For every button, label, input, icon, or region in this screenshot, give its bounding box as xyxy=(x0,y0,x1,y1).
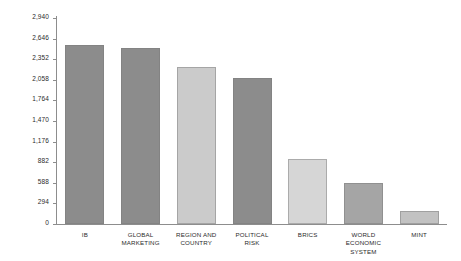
y-axis-tick-mark xyxy=(53,59,57,60)
bar[interactable] xyxy=(344,183,383,224)
y-axis-tick-label: 2,646 xyxy=(32,34,49,41)
bar-slot xyxy=(121,18,160,224)
y-axis-tick-mark xyxy=(53,142,57,143)
x-axis-category-label: WORLD ECONOMIC SYSTEM xyxy=(336,231,392,256)
x-axis-category-label: REGION AND COUNTRY xyxy=(168,231,224,248)
x-axis-category-label: GLOBAL MARKETING xyxy=(113,231,169,248)
bar-slot xyxy=(288,18,327,224)
y-axis-tick-label: 2,352 xyxy=(32,54,49,61)
bar-chart: 2,9402,6462,3522,0581,7641,4701,17688258… xyxy=(0,0,461,261)
y-axis-tick-mark xyxy=(53,224,57,225)
y-axis-tick-label: 0 xyxy=(45,219,49,226)
y-axis-tick-label: 1,470 xyxy=(32,116,49,123)
x-axis-category-label: POLITICAL RISK xyxy=(224,231,280,248)
y-axis-tick-label: 2,940 xyxy=(32,13,49,20)
y-axis-tick-mark xyxy=(53,162,57,163)
y-axis-tick-label: 1,764 xyxy=(32,95,49,102)
y-axis-tick-label: 588 xyxy=(38,178,49,185)
bar[interactable] xyxy=(65,45,104,224)
y-axis-tick-mark xyxy=(53,183,57,184)
y-axis-tick-mark xyxy=(53,203,57,204)
y-axis-tick-mark xyxy=(53,121,57,122)
bar-slot xyxy=(344,18,383,224)
bar-slot xyxy=(233,18,272,224)
x-axis-category-label: IB xyxy=(57,231,113,239)
y-axis-tick-mark xyxy=(53,100,57,101)
y-axis-tick-label: 294 xyxy=(38,198,49,205)
y-axis-tick-mark xyxy=(53,18,57,19)
y-axis-tick-label: 2,058 xyxy=(32,75,49,82)
bar[interactable] xyxy=(177,67,216,224)
bar-slot xyxy=(65,18,104,224)
bar[interactable] xyxy=(400,211,439,224)
bar-slot xyxy=(400,18,439,224)
bar[interactable] xyxy=(121,48,160,224)
x-axis-category-label: MINT xyxy=(391,231,447,239)
y-axis-tick-mark xyxy=(53,80,57,81)
y-axis-tick-label: 882 xyxy=(38,157,49,164)
bar-slot xyxy=(177,18,216,224)
y-axis-tick-label: 1,176 xyxy=(32,137,49,144)
x-axis-line xyxy=(57,224,447,225)
x-axis-category-label: BRICS xyxy=(280,231,336,239)
bar[interactable] xyxy=(288,159,327,224)
y-axis-tick-mark xyxy=(53,39,57,40)
bar[interactable] xyxy=(233,78,272,224)
